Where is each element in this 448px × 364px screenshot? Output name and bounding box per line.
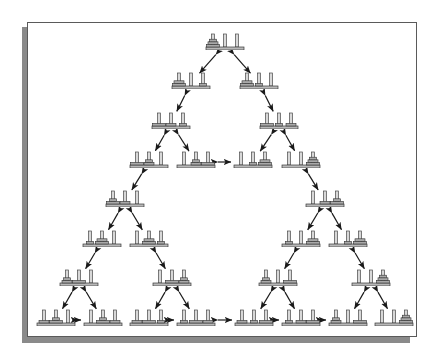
state-graph-canvas — [28, 23, 416, 336]
state-node[interactable] — [259, 109, 299, 129]
state-node[interactable] — [152, 266, 192, 286]
state-node[interactable] — [258, 266, 298, 286]
state-node[interactable] — [36, 306, 76, 326]
state-node[interactable] — [151, 109, 191, 129]
state-node[interactable] — [281, 306, 321, 326]
state-node[interactable] — [82, 227, 122, 247]
edge-layer — [28, 23, 417, 337]
page-root — [0, 0, 448, 364]
state-node[interactable] — [83, 306, 123, 326]
state-node[interactable] — [281, 227, 321, 247]
state-node[interactable] — [59, 266, 99, 286]
state-node[interactable] — [171, 69, 211, 89]
state-node[interactable] — [281, 148, 321, 168]
state-node[interactable] — [129, 306, 169, 326]
state-node[interactable] — [351, 266, 391, 286]
state-node[interactable] — [328, 306, 368, 326]
state-node[interactable] — [176, 148, 216, 168]
figure-frame — [27, 22, 417, 337]
state-node[interactable] — [205, 30, 245, 50]
state-node[interactable] — [233, 148, 273, 168]
state-node[interactable] — [305, 187, 345, 207]
state-node[interactable] — [234, 306, 274, 326]
state-node[interactable] — [176, 306, 216, 326]
state-node[interactable] — [239, 69, 279, 89]
state-node[interactable] — [374, 306, 414, 326]
state-node[interactable] — [105, 187, 145, 207]
state-node[interactable] — [129, 227, 169, 247]
state-node[interactable] — [328, 227, 368, 247]
state-node[interactable] — [129, 148, 169, 168]
